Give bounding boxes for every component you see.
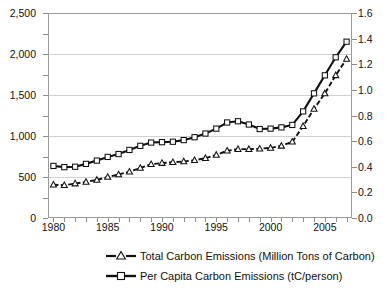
x-axis-tick bbox=[119, 218, 120, 222]
x-axis-tick bbox=[162, 218, 163, 222]
carbon-emissions-chart: 05001,0001,5002,0002,500 0.00.20.40.60.8… bbox=[0, 0, 392, 290]
x-axis-tick bbox=[260, 218, 261, 222]
x-axis-tick bbox=[108, 218, 109, 222]
x-axis-tick bbox=[347, 218, 348, 222]
legend-item-percapita: Per Capita Carbon Emissions (tC/person) bbox=[0, 266, 392, 286]
legend-marker-triangle-icon bbox=[104, 249, 138, 263]
y-axis-right-tick-label: 0.0 bbox=[358, 213, 392, 223]
y-axis-left-tick-label: 0 bbox=[0, 213, 36, 223]
y-axis-right-tick bbox=[352, 218, 357, 219]
x-axis-tick bbox=[53, 218, 54, 222]
y-axis-left-tick-label: 2,500 bbox=[0, 8, 36, 18]
y-axis-left-tick-label: 500 bbox=[0, 172, 36, 182]
chart-legend: Total Carbon Emissions (Million Tons of … bbox=[0, 246, 392, 286]
y-axis-left-tick-label: 1,000 bbox=[0, 131, 36, 141]
y-axis-left-tick bbox=[43, 13, 48, 14]
x-axis-tick bbox=[75, 218, 76, 222]
y-axis-right-tick-label: 1.0 bbox=[358, 85, 392, 95]
legend-marker-square-icon bbox=[104, 269, 138, 283]
x-axis-tick bbox=[173, 218, 174, 222]
x-axis-tick bbox=[205, 218, 206, 222]
y-axis-left-tick bbox=[43, 157, 48, 158]
y-axis-left-tick-label: 1,500 bbox=[0, 90, 36, 100]
legend-label-percapita: Per Capita Carbon Emissions (tC/person) bbox=[140, 270, 342, 282]
x-axis-tick bbox=[303, 218, 304, 222]
legend-item-total: Total Carbon Emissions (Million Tons of … bbox=[0, 246, 392, 266]
y-axis-right-tick-label: 1.2 bbox=[358, 59, 392, 69]
x-axis-tick bbox=[184, 218, 185, 222]
y-axis-right-tick bbox=[352, 192, 357, 193]
x-axis-tick bbox=[216, 218, 217, 222]
gridline bbox=[49, 136, 351, 137]
gridline bbox=[49, 54, 351, 55]
y-axis-right-tick bbox=[352, 13, 357, 14]
y-axis-right-tick bbox=[352, 141, 357, 142]
y-axis-right-tick-label: 0.4 bbox=[358, 162, 392, 172]
x-axis-tick-label: 1995 bbox=[196, 222, 236, 233]
x-axis-tick bbox=[238, 218, 239, 222]
gridline bbox=[49, 177, 351, 178]
y-axis-left-tick bbox=[43, 95, 48, 96]
x-axis-tick-label: 1980 bbox=[33, 222, 73, 233]
x-axis-tick bbox=[195, 218, 196, 222]
gridline bbox=[49, 95, 351, 96]
x-axis-tick bbox=[97, 218, 98, 222]
x-axis-tick bbox=[140, 218, 141, 222]
y-axis-right-tick-label: 0.2 bbox=[358, 187, 392, 197]
y-axis-right-tick-label: 1.6 bbox=[358, 8, 392, 18]
y-axis-right-tick-label: 0.6 bbox=[358, 136, 392, 146]
y-axis-right-tick bbox=[352, 167, 357, 168]
x-axis-tick-label: 2000 bbox=[251, 222, 291, 233]
y-axis-left-tick bbox=[43, 116, 48, 117]
x-axis-tick bbox=[227, 218, 228, 222]
y-axis-right-tick bbox=[352, 90, 357, 91]
x-axis-tick bbox=[271, 218, 272, 222]
x-axis-tick bbox=[325, 218, 326, 222]
y-axis-left-tick bbox=[43, 177, 48, 178]
x-axis-tick bbox=[314, 218, 315, 222]
y-axis-left-tick bbox=[43, 54, 48, 55]
y-axis-left-tick bbox=[43, 75, 48, 76]
plot-area bbox=[48, 13, 352, 218]
x-axis-tick bbox=[129, 218, 130, 222]
y-axis-left-tick bbox=[43, 198, 48, 199]
y-axis-left-tick bbox=[43, 136, 48, 137]
y-axis-right-tick bbox=[352, 64, 357, 65]
y-axis-right-tick bbox=[352, 39, 357, 40]
legend-label-total: Total Carbon Emissions (Million Tons of … bbox=[140, 250, 375, 262]
x-axis-tick bbox=[151, 218, 152, 222]
x-axis-tick-label: 1990 bbox=[142, 222, 182, 233]
x-axis-tick bbox=[249, 218, 250, 222]
y-axis-left-tick bbox=[43, 34, 48, 35]
x-axis-tick bbox=[64, 218, 65, 222]
x-axis-tick bbox=[281, 218, 282, 222]
x-axis-tick bbox=[292, 218, 293, 222]
x-axis-tick-label: 2005 bbox=[305, 222, 345, 233]
x-axis-tick bbox=[86, 218, 87, 222]
y-axis-left-tick-label: 2,000 bbox=[0, 49, 36, 59]
y-axis-right-tick-label: 0.8 bbox=[358, 111, 392, 121]
y-axis-left-tick bbox=[43, 218, 48, 219]
x-axis-tick-label: 1985 bbox=[88, 222, 128, 233]
y-axis-right-tick bbox=[352, 116, 357, 117]
x-axis-tick bbox=[336, 218, 337, 222]
y-axis-right-tick-label: 1.4 bbox=[358, 34, 392, 44]
